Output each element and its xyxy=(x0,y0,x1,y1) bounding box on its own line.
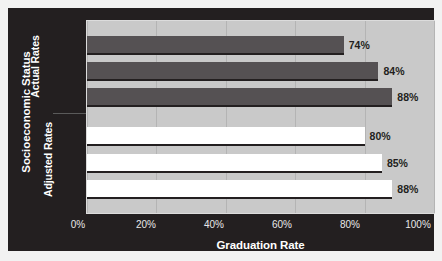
group-label-adjusted-rates: Adjusted Rates xyxy=(42,106,55,214)
bar-value-actual-middle: 84% xyxy=(383,62,404,81)
x-axis-title: Graduation Rate xyxy=(86,239,435,251)
x-tick-0: 0% xyxy=(55,218,101,231)
x-tick-80: 80% xyxy=(327,218,373,231)
plot-area: 74% 84% 88% 80% 85% 88% xyxy=(86,20,435,214)
chart-panel: Socioeconomic Status Actual Rates Adjust… xyxy=(8,8,434,251)
bar-value-adjusted-low: 80% xyxy=(370,127,391,146)
bar-adjusted-middle xyxy=(87,154,382,173)
group-label-actual-rates: Actual Rates xyxy=(29,19,42,114)
x-tick-20: 20% xyxy=(123,218,169,231)
bar-value-actual-high: 88% xyxy=(397,88,418,107)
bar-value-adjusted-middle: 85% xyxy=(387,154,408,173)
gridline-100 xyxy=(434,21,435,213)
x-tick-40: 40% xyxy=(191,218,237,231)
bar-actual-low xyxy=(87,36,344,55)
x-tick-60: 60% xyxy=(259,218,305,231)
x-tick-100: 100% xyxy=(395,218,441,231)
bar-value-adjusted-high: 88% xyxy=(397,180,418,199)
bar-actual-middle xyxy=(87,62,378,81)
chart-figure: Socioeconomic Status Actual Rates Adjust… xyxy=(0,0,442,261)
bar-adjusted-low xyxy=(87,127,365,146)
bar-adjusted-high xyxy=(87,180,392,199)
bar-actual-high xyxy=(87,88,392,107)
bar-value-actual-low: 74% xyxy=(349,36,370,55)
